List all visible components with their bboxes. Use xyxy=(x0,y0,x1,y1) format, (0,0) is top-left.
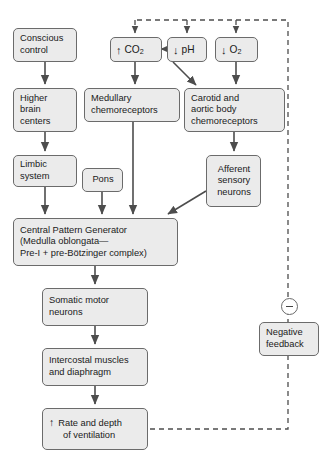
o2-subscript: 2 xyxy=(237,46,241,58)
node-conscious-control[interactable]: Conscious control xyxy=(13,28,77,62)
arrow-ph-to-carotid xyxy=(173,62,196,85)
o2-label: O xyxy=(230,44,238,56)
negative-feedback-line-2: feedback xyxy=(266,339,313,351)
medullary-line-2: chemoreceptors xyxy=(91,105,174,117)
node-higher-brain-centers[interactable]: Higher brain centers xyxy=(13,88,77,132)
higher-brain-line-3: centers xyxy=(20,116,71,128)
ventilation-control-diagram: Conscious control Higher brain centers L… xyxy=(0,0,331,458)
node-carotid-aortic-chemoreceptors[interactable]: Carotid and aortic body chemoreceptors xyxy=(184,88,285,132)
rate-depth-line-1: Rate and depth xyxy=(58,418,122,430)
cpg-line-1: Central Pattern Generator xyxy=(20,225,127,237)
ph-label: pH xyxy=(182,44,195,56)
rate-depth-line-1-wrap: ↑ Rate and depth xyxy=(49,417,142,430)
medullary-line-1: Medullary xyxy=(91,93,174,105)
cpg-line-2: (Medulla oblongata— xyxy=(20,236,108,248)
rate-depth-line-2: of ventilation xyxy=(49,430,142,442)
afferent-line-2: sensory xyxy=(218,175,251,187)
node-o2[interactable]: ↓ O2 xyxy=(215,37,258,62)
conscious-control-line-2: control xyxy=(20,45,71,57)
node-afferent-sensory-neurons[interactable]: Afferent sensory neurons xyxy=(206,155,261,207)
somatic-line-1: Somatic motor xyxy=(49,295,142,307)
minus-bar xyxy=(286,306,293,307)
node-medullary-chemoreceptors[interactable]: Medullary chemoreceptors xyxy=(84,88,180,122)
node-limbic-system[interactable]: Limbic system xyxy=(13,155,77,187)
arrow-afferent-to-cpg xyxy=(168,191,206,214)
cpg-line-3: Pre-I + pre-Bötzinger complex) xyxy=(20,248,147,260)
node-rate-depth-ventilation[interactable]: ↑ Rate and depth of ventilation xyxy=(42,408,148,450)
co2-subscript: 2 xyxy=(140,46,144,58)
negative-feedback-line-1: Negative xyxy=(266,327,313,339)
node-negative-feedback[interactable]: Negative feedback xyxy=(259,322,319,356)
up-arrow-icon: ↑ xyxy=(116,45,122,55)
node-ph[interactable]: ↓ pH xyxy=(167,37,207,62)
afferent-line-1: Afferent xyxy=(218,164,250,176)
higher-brain-line-1: Higher xyxy=(20,93,71,105)
carotid-line-1: Carotid and xyxy=(191,93,279,105)
node-somatic-motor-neurons[interactable]: Somatic motor neurons xyxy=(42,288,148,326)
higher-brain-line-2: brain xyxy=(20,104,71,116)
node-central-pattern-generator[interactable]: Central Pattern Generator (Medulla oblon… xyxy=(13,218,178,266)
carotid-line-2: aortic body xyxy=(191,104,279,116)
intercostal-line-2: and diaphragm xyxy=(49,367,142,379)
limbic-line-1: Limbic xyxy=(20,159,71,171)
limbic-line-2: system xyxy=(20,171,71,183)
minus-sign-icon xyxy=(281,298,298,315)
afferent-line-3: neurons xyxy=(217,187,251,199)
up-arrow-icon: ↑ xyxy=(49,417,54,429)
node-intercostal-muscles-diaphragm[interactable]: Intercostal muscles and diaphragm xyxy=(42,348,148,386)
node-co2[interactable]: ↑ CO2 xyxy=(110,37,162,62)
node-pons[interactable]: Pons xyxy=(82,168,123,192)
co2-label: CO xyxy=(125,44,140,56)
conscious-control-line-1: Conscious xyxy=(20,33,71,45)
down-arrow-icon: ↓ xyxy=(221,45,227,55)
pons-label: Pons xyxy=(92,174,113,186)
somatic-line-2: neurons xyxy=(49,307,142,319)
intercostal-line-1: Intercostal muscles xyxy=(49,355,142,367)
down-arrow-icon: ↓ xyxy=(173,45,179,55)
carotid-line-3: chemoreceptors xyxy=(191,116,279,128)
